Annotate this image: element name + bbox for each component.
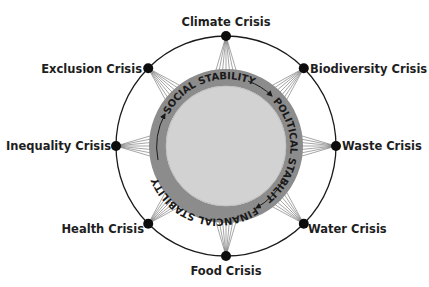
spoke-line (148, 68, 167, 97)
crisis-node-inequality (111, 141, 121, 151)
crisis-node-biodiversity (299, 63, 309, 73)
crisis-node-food (221, 251, 231, 261)
spoke-line (284, 195, 303, 224)
crisis-label-biodiversity: Biodiversity Crisis (310, 62, 427, 76)
spoke-line (148, 68, 172, 92)
spoke-line (275, 68, 304, 87)
crisis-node-exclusion (143, 63, 153, 73)
polycrisis-diagram: SOCIAL STABILITY POLITICAL STABILITY FIN… (0, 0, 429, 287)
spoke-line (116, 139, 150, 146)
spoke-line (302, 146, 336, 153)
spoke-line (277, 68, 304, 90)
spoke-line (280, 200, 304, 224)
crisis-label-health: Health Crisis (62, 222, 145, 236)
spoke-line (219, 36, 226, 70)
spoke-line (302, 139, 336, 146)
spoke-line (280, 68, 304, 92)
spoke-line (275, 204, 304, 223)
spoke-line (226, 36, 233, 70)
spoke-line (277, 202, 304, 224)
crisis-label-climate: Climate Crisis (181, 15, 270, 29)
spoke-line (282, 197, 304, 224)
spoke-line (148, 68, 175, 90)
spoke-line (282, 68, 304, 95)
crisis-node-health (143, 219, 153, 229)
crisis-label-exclusion: Exclusion Crisis (41, 62, 142, 76)
crisis-label-water: Water Crisis (308, 222, 387, 236)
spoke-line (116, 146, 150, 153)
inner-disc (166, 86, 286, 206)
spoke-line (284, 68, 303, 97)
crisis-label-food: Food Crisis (190, 264, 261, 278)
crisis-node-waste (331, 141, 341, 151)
crisis-label-waste: Waste Crisis (342, 139, 422, 153)
crisis-label-inequality: Inequality Crisis (6, 139, 111, 153)
spoke-line (148, 68, 177, 87)
crisis-node-climate (221, 31, 231, 41)
spoke-line (148, 68, 170, 95)
